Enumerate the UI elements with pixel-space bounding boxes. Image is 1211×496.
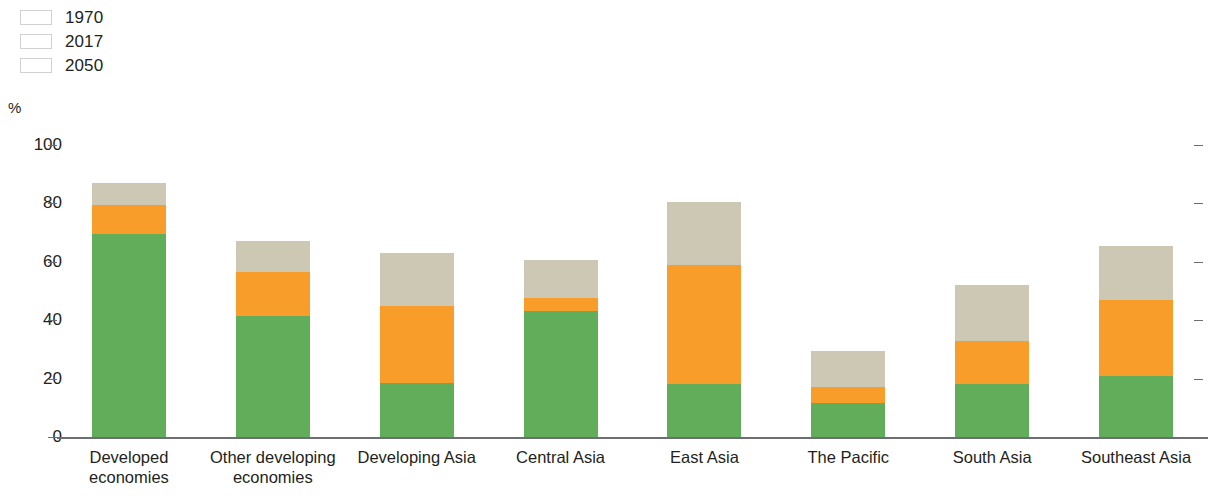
y-axis-tick-mark	[48, 262, 57, 263]
bar-segment-1970[interactable]	[524, 311, 598, 437]
bar-segment-1970[interactable]	[667, 384, 741, 437]
bar-segment-1970[interactable]	[92, 234, 166, 437]
bar[interactable]	[236, 241, 310, 437]
y-axis-tick-mark	[48, 437, 57, 438]
bar-segment-1970[interactable]	[955, 384, 1029, 437]
y-axis-tick-mark	[48, 320, 57, 321]
bar-segment-1970[interactable]	[380, 383, 454, 437]
y-axis-tick-mark	[48, 379, 57, 380]
y-axis-tick-mark	[48, 145, 57, 146]
bar[interactable]	[667, 202, 741, 437]
bar[interactable]	[92, 183, 166, 437]
y-axis-tick-mark	[48, 203, 57, 204]
bar[interactable]	[1099, 246, 1173, 437]
bar[interactable]	[380, 253, 454, 437]
x-axis-category-label: Southeast Asia	[1046, 447, 1211, 467]
bar[interactable]	[955, 285, 1029, 437]
bar-segment-1970[interactable]	[1099, 376, 1173, 437]
bar-series-container: Developed economiesOther developing econ…	[57, 0, 1208, 496]
bar-chart-plot: % 100806040200 Developed economiesOther …	[0, 0, 1211, 496]
y-axis-unit-label: %	[8, 99, 21, 116]
bar-segment-1970[interactable]	[811, 403, 885, 437]
bar[interactable]	[811, 351, 885, 437]
bar[interactable]	[524, 260, 598, 437]
bar-segment-1970[interactable]	[236, 316, 310, 437]
